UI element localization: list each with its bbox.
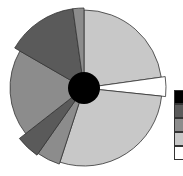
legend-swatch (174, 90, 183, 104)
legend-swatch (174, 146, 183, 160)
legend-swatch (174, 132, 183, 146)
radial-pie-chart (0, 0, 183, 176)
pie-slice (84, 10, 161, 88)
legend-swatch (174, 104, 183, 118)
center-hole (68, 72, 100, 104)
legend-swatch (174, 118, 183, 132)
chart-legend (174, 90, 183, 160)
